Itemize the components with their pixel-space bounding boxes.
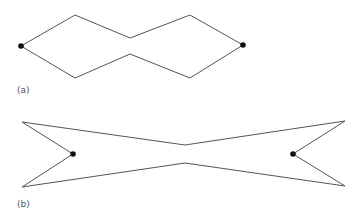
vertex-dot-icon	[70, 151, 76, 157]
figure-a	[18, 15, 246, 78]
figure-b	[22, 121, 345, 187]
vertex-dot-icon	[240, 42, 246, 48]
figure-a-outline	[21, 15, 243, 78]
figure-b-label: (b)	[17, 199, 30, 209]
figure-a-label: (a)	[17, 85, 30, 95]
diagram-canvas	[0, 0, 361, 222]
vertex-dot-icon	[290, 151, 296, 157]
vertex-dot-icon	[18, 43, 24, 49]
